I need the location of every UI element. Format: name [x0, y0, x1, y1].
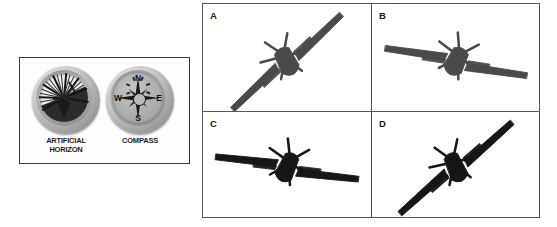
aircraft-icon [203, 111, 371, 218]
aircraft-cell-a: A [203, 4, 371, 111]
compass-cardinal-west: W [114, 94, 122, 103]
aircraft-icon [371, 4, 539, 111]
artificial-horizon-caption: ARTIFICIAL HORIZON [29, 137, 103, 154]
artificial-horizon-gauge [30, 64, 102, 136]
artificial-horizon-instrument: ARTIFICIAL HORIZON [29, 64, 103, 160]
aircraft-silhouette-a [203, 4, 371, 111]
artificial-horizon-caption-line2: HORIZON [29, 146, 103, 155]
aircraft-cell-d: D [371, 111, 539, 218]
compass-minor-tick [126, 83, 131, 87]
compass-gauge: N E S W [104, 64, 176, 136]
aircraft-silhouette-d [372, 112, 539, 218]
compass-instrument: N E S W COMPASS [103, 64, 177, 160]
compass-hub [133, 93, 146, 106]
instrument-panel: ARTIFICIAL HORIZON N E S W COMPASS [19, 57, 190, 164]
horizon-tick-ring [40, 74, 88, 122]
compass-caption: COMPASS [103, 137, 177, 146]
aircraft-silhouette-b [372, 4, 539, 111]
compass-minor-tick [146, 83, 151, 87]
aircraft-attitude-grid: A [202, 3, 540, 218]
compass-caption-line1: COMPASS [103, 137, 177, 146]
compass-cardinal-north: N [135, 74, 141, 83]
aircraft-cell-b: B [371, 4, 539, 111]
aircraft-silhouette-c [203, 112, 371, 218]
compass-cardinal-south: S [135, 114, 141, 123]
aircraft-cell-c: C [203, 111, 371, 218]
compass-cardinal-east: E [156, 94, 162, 103]
aircraft-icon [203, 4, 371, 111]
compass-face: N E S W [112, 72, 164, 124]
aircraft-icon [371, 111, 539, 218]
